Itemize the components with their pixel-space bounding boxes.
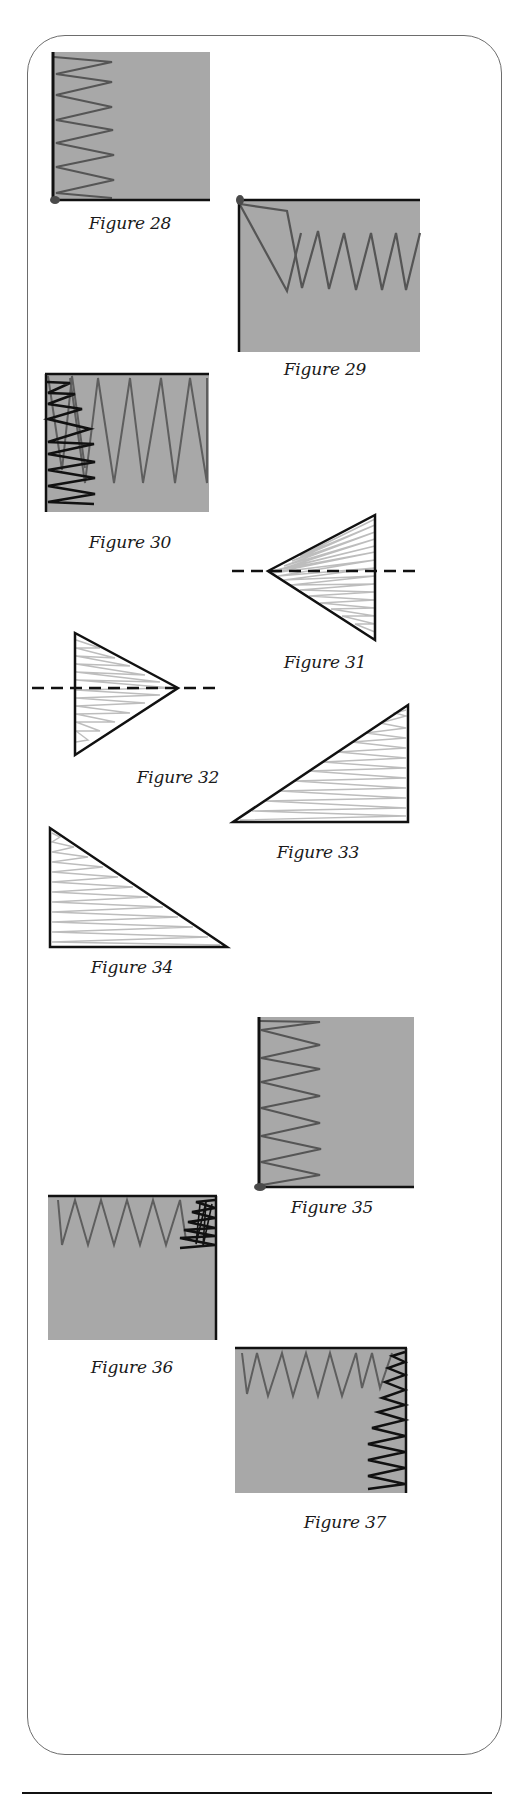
stitch-diagrams — [0, 0, 532, 1800]
figure-29-diagram — [236, 195, 420, 352]
figure-36-diagram — [48, 1196, 217, 1340]
figure-35-diagram — [254, 1017, 414, 1191]
figure-32-diagram — [32, 633, 220, 755]
figure-35-caption: Figure 35 — [291, 1197, 374, 1217]
figure-30-caption: Figure 30 — [89, 532, 172, 552]
figure-31-caption: Figure 31 — [284, 652, 367, 672]
figure-29-caption: Figure 29 — [284, 359, 367, 379]
figure-28-caption: Figure 28 — [89, 213, 172, 233]
figure-33-diagram — [233, 705, 408, 822]
figure-32-caption: Figure 32 — [137, 767, 220, 787]
figure-37-diagram — [235, 1348, 407, 1493]
figure-34-diagram — [50, 828, 227, 947]
bottom-rule-divider — [22, 1792, 492, 1794]
figure-31-diagram — [232, 515, 416, 640]
figure-33-caption: Figure 33 — [277, 842, 360, 862]
figure-28-diagram — [50, 52, 210, 204]
figure-34-caption: Figure 34 — [91, 957, 174, 977]
figure-30-diagram — [45, 374, 209, 512]
figure-37-caption: Figure 37 — [304, 1512, 387, 1532]
figure-36-caption: Figure 36 — [91, 1357, 174, 1377]
